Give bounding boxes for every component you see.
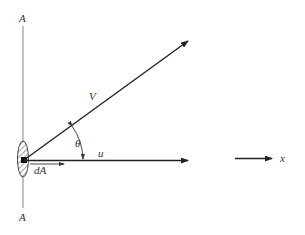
x-axis-label: x xyxy=(279,152,285,164)
flow-diagram: A A V θ u dA x xyxy=(0,0,305,235)
velocity-label: V xyxy=(89,90,97,102)
dA-label: dA xyxy=(34,164,47,176)
plane-bottom-label: A xyxy=(18,211,26,223)
plane-top-label: A xyxy=(18,12,26,24)
theta-label: θ xyxy=(75,137,81,149)
u-label: u xyxy=(98,147,104,159)
velocity-vector-arrow xyxy=(24,41,188,160)
